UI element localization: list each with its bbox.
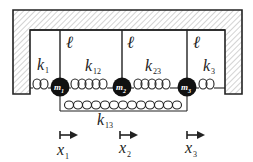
label-k23: k 23 <box>145 57 161 76</box>
svg-text:1: 1 <box>45 66 49 75</box>
arrow-x1 <box>60 131 78 139</box>
svg-text:x: x <box>184 139 192 156</box>
svg-text:k: k <box>145 57 153 74</box>
svg-text:k: k <box>85 57 93 74</box>
length-labels: ℓ ℓ ℓ <box>66 33 200 52</box>
svg-text:3: 3 <box>211 67 215 76</box>
label-k3: k 3 <box>203 57 215 76</box>
svg-text:k: k <box>203 57 211 74</box>
svg-text:ℓ: ℓ <box>66 33 73 52</box>
svg-text:k: k <box>37 56 45 73</box>
svg-text:13: 13 <box>105 121 113 130</box>
svg-text:1: 1 <box>65 152 69 161</box>
spring-mass-diagram: m 1 m 2 m 3 ℓ ℓ ℓ k 1 k 12 k 23 k 3 <box>0 0 253 162</box>
displacement-arrows <box>60 131 205 139</box>
svg-text:k: k <box>97 111 105 128</box>
mass-m2: m 2 <box>113 78 132 97</box>
label-x2: x 2 <box>118 139 131 159</box>
arrow-x2 <box>120 131 138 139</box>
label-x1: x 1 <box>56 141 69 161</box>
label-k13: k 13 <box>97 111 113 130</box>
spring-k3 <box>196 79 225 89</box>
spring-k23 <box>131 79 178 89</box>
svg-text:23: 23 <box>153 67 161 76</box>
svg-text:3: 3 <box>193 150 197 159</box>
svg-text:x: x <box>56 141 64 158</box>
mass-m3: m 3 <box>178 78 197 97</box>
svg-text:m: m <box>54 82 61 92</box>
spring-k1 <box>30 79 51 89</box>
label-k12: k 12 <box>85 57 101 76</box>
svg-text:3: 3 <box>187 88 191 94</box>
svg-text:m: m <box>181 82 188 92</box>
svg-text:1: 1 <box>61 88 64 94</box>
svg-text:m: m <box>116 82 123 92</box>
svg-text:12: 12 <box>93 67 101 76</box>
displacement-labels: x 1 x 2 x 3 <box>56 139 197 161</box>
spring-k13 <box>60 96 187 111</box>
spring-k12 <box>69 79 113 89</box>
svg-text:2: 2 <box>127 150 131 159</box>
divider-lines <box>60 30 187 79</box>
label-k1: k 1 <box>37 56 49 75</box>
svg-text:ℓ: ℓ <box>127 33 134 52</box>
label-x3: x 3 <box>184 139 197 159</box>
svg-text:2: 2 <box>122 88 126 94</box>
svg-text:ℓ: ℓ <box>193 33 200 52</box>
svg-text:x: x <box>118 139 126 156</box>
arrow-x3 <box>187 131 205 139</box>
mass-m1: m 1 <box>51 78 70 97</box>
